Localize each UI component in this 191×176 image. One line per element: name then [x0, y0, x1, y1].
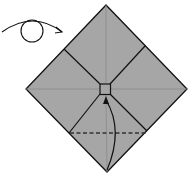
center-square [100, 84, 111, 95]
diagram-canvas [0, 0, 191, 176]
origami-diagram [0, 0, 191, 176]
turn-over-arrow [2, 20, 62, 42]
